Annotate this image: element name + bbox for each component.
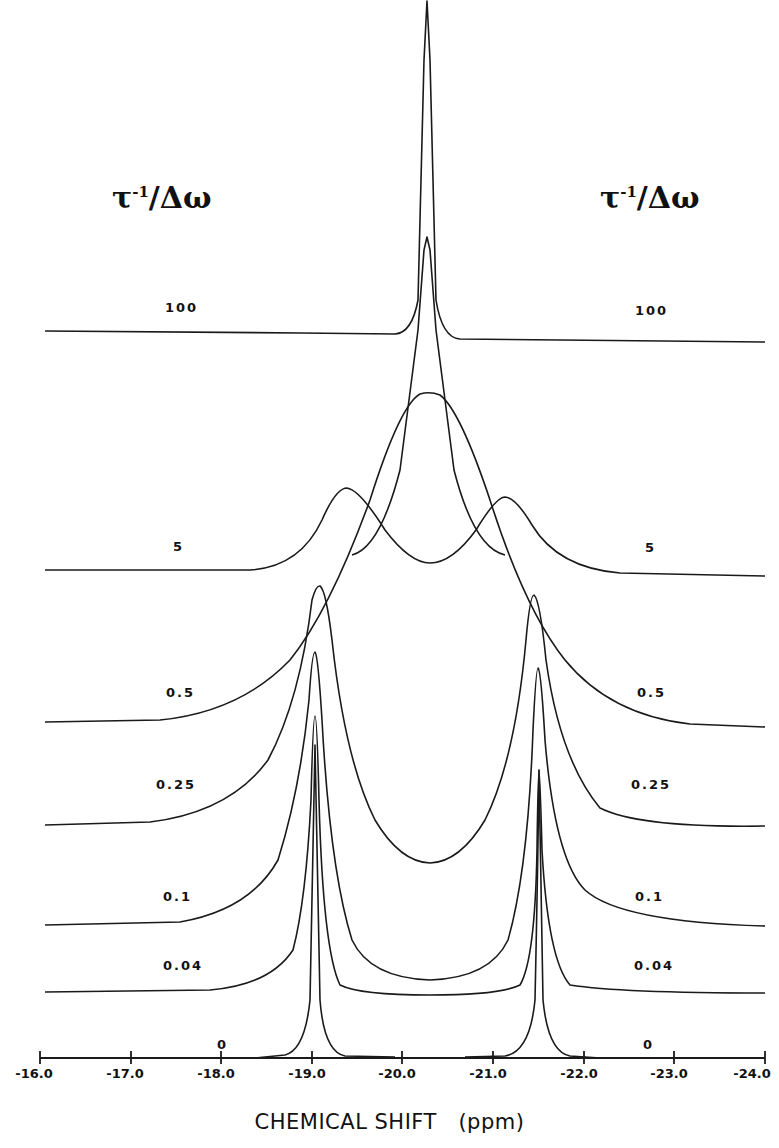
legend-title-left: τ-1/Δω — [112, 180, 212, 215]
label-right-5: 5 — [645, 540, 656, 555]
tick-label: -23.0 — [650, 1066, 687, 1081]
curve-0 — [255, 745, 600, 1058]
tick-label: -18.0 — [197, 1066, 234, 1081]
label-right-0.5: 0.5 — [637, 685, 666, 700]
curve-5 — [45, 488, 765, 576]
tick-label: -24.0 — [733, 1066, 770, 1081]
label-right-0.1: 0.1 — [635, 889, 664, 904]
curve-0.1 — [45, 652, 765, 980]
label-left-0: 0 — [217, 1037, 228, 1052]
tick-label: -22.0 — [560, 1066, 597, 1081]
label-left-100: 100 — [165, 300, 198, 315]
curve-0.04 — [45, 716, 765, 995]
label-left-0.1: 0.1 — [163, 889, 192, 904]
nmr-spectra-plot — [0, 0, 779, 1148]
superscript: -1 — [132, 183, 149, 201]
label-right-0.25: 0.25 — [631, 777, 671, 792]
label-left-0.04: 0.04 — [163, 958, 203, 973]
tick-label: -16.0 — [15, 1066, 52, 1081]
label-right-0: 0 — [643, 1037, 654, 1052]
label-left-0.5: 0.5 — [166, 685, 195, 700]
curve-0.25 — [45, 586, 765, 863]
tick-label: -20.0 — [378, 1066, 415, 1081]
label-right-100: 100 — [635, 303, 668, 318]
label-right-0.04: 0.04 — [634, 958, 674, 973]
legend-title-right: τ-1/Δω — [600, 180, 700, 215]
curve-100 — [45, 1, 765, 342]
label-left-5: 5 — [173, 539, 184, 554]
curve-central-narrow — [352, 237, 505, 555]
tick-label: -21.0 — [469, 1066, 506, 1081]
x-axis-title: CHEMICAL SHIFT (ppm) — [0, 1110, 779, 1134]
delta-omega: /Δω — [149, 180, 212, 215]
tau-symbol: τ — [112, 180, 132, 215]
delta-omega: /Δω — [637, 180, 700, 215]
tick-label: -19.0 — [288, 1066, 325, 1081]
tau-symbol: τ — [600, 180, 620, 215]
curve-0.5 — [45, 393, 765, 727]
tick-label: -17.0 — [106, 1066, 143, 1081]
superscript: -1 — [620, 183, 637, 201]
label-left-0.25: 0.25 — [156, 777, 196, 792]
